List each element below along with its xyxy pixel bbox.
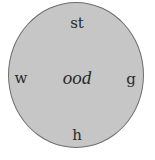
prefix-bottom: h xyxy=(72,128,82,143)
prefix-top: st xyxy=(70,16,84,31)
center-word-ending: ood xyxy=(63,68,92,87)
prefix-right: g xyxy=(126,72,136,87)
prefix-left: w xyxy=(15,71,28,86)
